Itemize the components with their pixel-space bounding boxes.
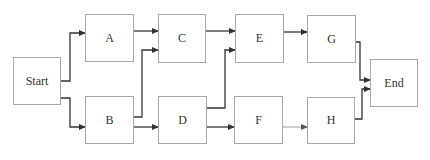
node-g: G — [307, 15, 356, 63]
node-f: F — [234, 96, 283, 144]
node-d: D — [158, 96, 207, 144]
node-label-end: End — [384, 76, 403, 91]
node-label-h: H — [327, 113, 336, 128]
node-label-g: G — [327, 32, 336, 47]
node-label-d: D — [178, 113, 187, 128]
edge-d-to-e — [207, 50, 235, 108]
node-label-c: C — [178, 31, 186, 46]
node-label-start: Start — [26, 74, 49, 89]
node-label-a: A — [105, 31, 114, 46]
node-c: C — [158, 14, 206, 63]
node-label-f: F — [255, 113, 262, 128]
edge-h-to-end — [355, 89, 370, 119]
flowchart-canvas: Start A C E G B D F H End — [0, 0, 430, 160]
edge-b-to-c — [134, 50, 158, 117]
node-label-b: B — [105, 113, 113, 128]
node-start: Start — [13, 57, 61, 105]
node-b: B — [85, 96, 134, 144]
node-e: E — [235, 14, 284, 63]
edge-g-to-end — [356, 42, 370, 80]
node-a: A — [85, 14, 134, 62]
edge-start-to-a — [61, 33, 85, 81]
edges-layer — [0, 0, 430, 160]
node-h: H — [307, 97, 355, 144]
node-end: End — [370, 59, 418, 107]
edge-start-to-b — [61, 98, 85, 127]
node-label-e: E — [256, 31, 263, 46]
